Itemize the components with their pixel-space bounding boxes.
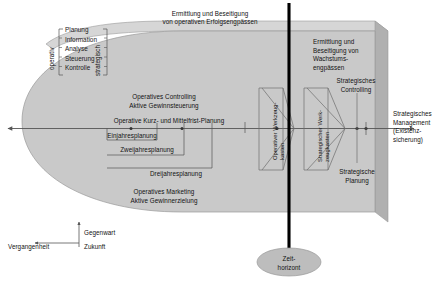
- operatives-marketing-line1: Operatives Marketing: [94, 188, 234, 196]
- operative-planung-axis-label: Operative Kurz- und Mittelfrist-Planung: [84, 117, 254, 125]
- function-list-item-planung: Planung: [65, 25, 88, 35]
- operative-toolbox-label-line2: kasten: [279, 143, 286, 160]
- strategisches-controlling-line2: Controlling: [320, 86, 392, 94]
- dreijahresplanung-label: Dreijahresplanung: [140, 170, 212, 178]
- diagram-canvas: Ermittlung und Beseitigung von operative…: [0, 0, 442, 283]
- wachstumsengpass-line3: Wachstums-: [313, 55, 348, 63]
- operativ-label: operativ: [48, 47, 56, 70]
- strategisches-management-line4: sicherung): [393, 136, 423, 144]
- top-title: Ermittlung und Beseitigung von operative…: [130, 10, 290, 26]
- wachstumsengpass-line4: engpässen: [313, 64, 344, 72]
- einjahresplanung-label: Einjahresplanung: [105, 132, 159, 140]
- operatives-controlling-line1: Operatives Controlling: [94, 93, 234, 101]
- function-list-item-steuerung: Steuerung: [65, 54, 95, 64]
- wachstumsengpass-line1: Ermittlung und: [313, 38, 354, 46]
- strategische-planung-line1: Strategische: [322, 168, 392, 176]
- strategisches-management-line3: (Existenz-: [393, 127, 422, 135]
- strategisches-management-line1: Strategisches: [393, 110, 432, 118]
- operatives-marketing-line2: Aktive Gewinnerzielung: [94, 197, 234, 205]
- strategic-toolbox-label-line2: zeugkasten: [324, 132, 331, 162]
- strategische-planung-line2: Planung: [322, 177, 392, 185]
- strategisch-label: strategisch: [94, 45, 102, 76]
- strategisches-controlling-line1: Strategisches: [320, 77, 392, 85]
- zeithorizont-line1: Zeit-: [263, 255, 315, 263]
- slab-right-face: [375, 21, 388, 222]
- axis-tick-dot: [181, 127, 184, 130]
- strategisches-management-line2: Management: [393, 119, 430, 127]
- zukunft-label: Zukunft: [84, 243, 105, 251]
- vergangenheit-label: Vergangenheit: [8, 243, 49, 251]
- gegenwart-label: Gegenwart: [84, 229, 115, 237]
- axis-tick-dot: [130, 127, 133, 130]
- function-list-item-information: Information: [65, 35, 97, 45]
- function-list-item-kontrolle: Kontrolle: [65, 63, 90, 73]
- zweijahresplanung-label: Zweijahresplanung: [112, 146, 182, 154]
- zeithorizont-line2: horizont: [263, 264, 315, 272]
- function-list-item-analyse: Analyse: [65, 44, 88, 54]
- operatives-controlling-line2: Aktive Gewinnsteuerung: [94, 102, 234, 110]
- wachstumsengpass-line2: Beseitigung von: [313, 47, 359, 55]
